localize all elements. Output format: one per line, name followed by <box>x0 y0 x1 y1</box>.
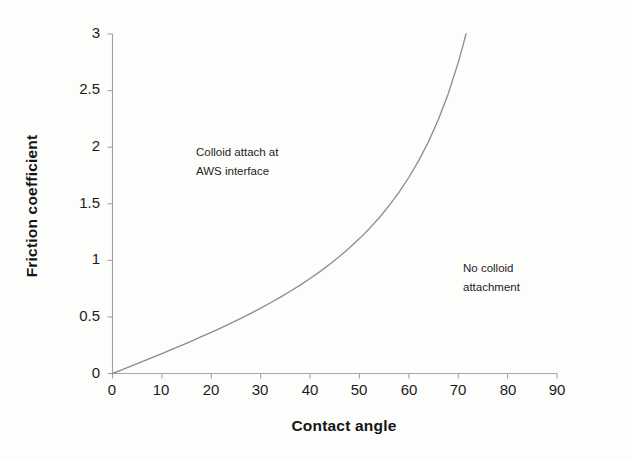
y-tick-label-2: 2 <box>54 137 100 154</box>
x-axis-ticks <box>113 374 558 379</box>
y-tick-label-0point5: 0.5 <box>54 307 100 324</box>
x-tick-label-70: 70 <box>438 381 478 398</box>
annotation-no-attachment-line1: No colloid <box>463 260 514 278</box>
x-tick-label-10: 10 <box>141 381 181 398</box>
x-tick-label-40: 40 <box>290 381 330 398</box>
y-tick-label-2point5: 2.5 <box>54 80 100 97</box>
data-series-curve <box>113 34 466 374</box>
x-tick-label-90: 90 <box>537 381 577 398</box>
annotation-colloid-attach-line1: Colloid attach at <box>196 144 278 162</box>
y-axis-ticks <box>108 34 113 374</box>
y-tick-label-3: 3 <box>54 24 100 41</box>
x-tick-label-20: 20 <box>191 381 231 398</box>
x-tick-label-60: 60 <box>389 381 429 398</box>
x-axis-title: Contact angle <box>0 417 632 435</box>
x-tick-label-80: 80 <box>488 381 528 398</box>
y-tick-label-0: 0 <box>54 364 100 381</box>
x-tick-label-30: 30 <box>240 381 280 398</box>
y-tick-label-1point5: 1.5 <box>54 194 100 211</box>
annotation-colloid-attach-line2: AWS interface <box>196 163 269 181</box>
chart-figure: 0 0.5 1 1.5 2 2.5 3 0 10 20 30 40 50 60 … <box>0 0 632 460</box>
annotation-no-attachment-line2: attachment <box>463 279 520 297</box>
x-tick-label-50: 50 <box>339 381 379 398</box>
y-tick-label-1: 1 <box>54 250 100 267</box>
x-tick-label-0: 0 <box>92 381 132 398</box>
y-axis-title: Friction coefficient <box>23 111 41 301</box>
